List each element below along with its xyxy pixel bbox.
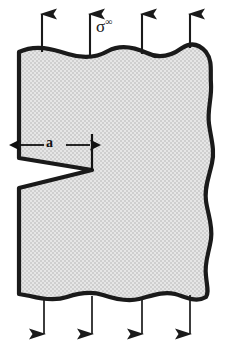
infinity-symbol: ∞ — [105, 16, 112, 27]
crack-length-label: a — [46, 136, 53, 150]
remote-stress-label: σ∞ — [96, 17, 112, 35]
fracture-mechanics-diagram — [0, 0, 233, 348]
figure-canvas: σ∞ a — [0, 0, 233, 348]
sigma-symbol: σ — [96, 17, 105, 36]
cracked-plate-body — [19, 45, 213, 301]
plate-outline — [19, 45, 213, 301]
